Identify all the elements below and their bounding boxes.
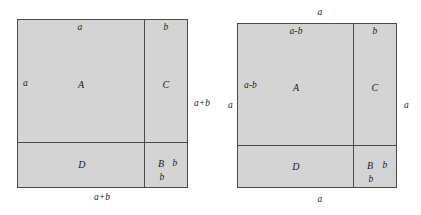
left-square-region-b: B: [158, 159, 164, 169]
right-square-vertical-divider: [353, 23, 354, 188]
left-square-top-right-width-label: b: [164, 23, 169, 33]
right-square-left-side-label: a: [228, 101, 233, 111]
left-square-region-a: A: [78, 80, 84, 90]
right-square-bottom-side-label: a: [318, 195, 323, 205]
left-square-right-side-label: a+b: [194, 99, 210, 109]
right-square-region-a: A: [293, 83, 299, 93]
right-square-region-b: B: [367, 161, 373, 171]
right-square-right-side-label: a: [404, 101, 409, 111]
right-square-region-d: D: [292, 162, 299, 172]
right-square-horizontal-divider: [237, 145, 397, 146]
left-square-left-height-label: a: [23, 79, 28, 89]
left-square-small-b-bottom-label: b: [160, 173, 165, 183]
left-square-region-c: C: [163, 80, 170, 90]
left-square-region-d: D: [78, 160, 85, 170]
diagram-canvas: a b a A C D B b b a+b a+b a-b b a-b A C …: [0, 0, 421, 215]
right-square-small-b-bottom-label: b: [369, 175, 374, 185]
right-square-top-left-width-label: a-b: [290, 27, 303, 37]
left-square-bottom-side-label: a+b: [94, 193, 110, 203]
left-square-vertical-divider: [144, 19, 145, 188]
right-square-small-b-right-label: b: [383, 161, 388, 171]
left-square-small-b-right-label: b: [173, 159, 178, 169]
right-square-left-height-label: a-b: [244, 81, 257, 91]
right-square-region-c: C: [372, 83, 379, 93]
left-square-top-left-width-label: a: [78, 23, 83, 33]
right-square-top-right-width-label: b: [373, 27, 378, 37]
right-square-top-side-label: a: [318, 8, 323, 18]
left-square-horizontal-divider: [17, 142, 188, 143]
